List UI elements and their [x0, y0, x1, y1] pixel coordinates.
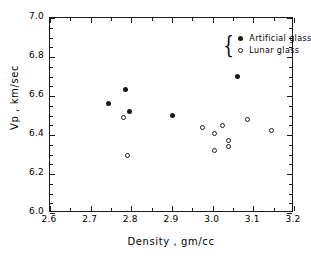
data-point-lunar-glass	[125, 153, 130, 158]
y-axis-tick	[50, 86, 53, 87]
y-axis-tick	[50, 174, 55, 175]
plot-area: { Artificial glass Lunar glass	[49, 17, 293, 212]
data-point-lunar-glass	[269, 128, 274, 133]
x-axis-tick	[70, 208, 71, 211]
x-axis-tick	[172, 18, 173, 23]
scatter-plot-figure: { Artificial glass Lunar glass 2.62.72.8…	[0, 0, 311, 263]
data-point-artificial-glass	[123, 87, 128, 92]
x-axis-tick	[253, 206, 254, 211]
y-axis-tick	[289, 164, 292, 165]
y-axis-tick	[50, 18, 55, 19]
legend-label-lunar-glass: Lunar glass	[249, 46, 299, 55]
y-axis-tick	[289, 106, 292, 107]
x-axis-tick	[91, 206, 92, 211]
y-axis-tick	[287, 57, 292, 58]
x-axis-tick	[294, 18, 295, 23]
y-axis-tick	[50, 67, 53, 68]
data-point-lunar-glass	[212, 148, 217, 153]
data-point-artificial-glass	[106, 101, 111, 106]
x-tick-label: 2.8	[115, 214, 145, 225]
y-axis-tick	[289, 194, 292, 195]
x-axis-title: Density , gm/cc	[49, 236, 293, 247]
x-tick-label: 3.0	[197, 214, 227, 225]
data-point-artificial-glass	[170, 113, 175, 118]
y-axis-tick	[50, 96, 55, 97]
x-axis-tick	[274, 208, 275, 211]
y-tick-label: 7.0	[12, 11, 44, 22]
x-tick-label: 3.2	[278, 214, 308, 225]
y-axis-tick	[289, 28, 292, 29]
x-axis-tick	[233, 18, 234, 21]
x-axis-tick	[91, 18, 92, 23]
legend-brace-icon: {	[223, 40, 234, 50]
y-axis-tick	[50, 184, 53, 185]
y-axis-tick	[289, 67, 292, 68]
x-axis-tick	[253, 18, 254, 23]
x-axis-tick	[213, 206, 214, 211]
y-axis-tick	[289, 86, 292, 87]
y-axis-tick	[289, 77, 292, 78]
open-circle-icon	[238, 48, 243, 53]
y-axis-tick	[289, 145, 292, 146]
x-axis-tick	[192, 18, 193, 21]
y-axis-tick	[289, 155, 292, 156]
y-axis-tick	[287, 96, 292, 97]
y-axis-title: Vp , km/sec	[9, 48, 20, 148]
data-point-lunar-glass	[245, 117, 250, 122]
x-axis-tick	[131, 18, 132, 23]
x-axis-tick	[213, 18, 214, 23]
legend-label-artificial-glass: Artificial glass	[249, 34, 311, 43]
x-tick-label: 3.1	[237, 214, 267, 225]
legend-rows: Artificial glass Lunar glass	[238, 34, 311, 55]
x-axis-tick	[152, 18, 153, 21]
data-point-lunar-glass	[212, 131, 217, 136]
y-axis-tick	[50, 155, 53, 156]
y-axis-tick	[50, 145, 53, 146]
y-axis-tick	[50, 38, 53, 39]
y-axis-tick	[50, 194, 53, 195]
x-axis-tick	[111, 208, 112, 211]
legend-item-lunar-glass: Lunar glass	[238, 46, 311, 55]
filled-circle-icon	[238, 36, 243, 41]
x-axis-tick	[172, 206, 173, 211]
y-axis-tick	[289, 116, 292, 117]
y-tick-label: 6.2	[12, 167, 44, 178]
y-axis-tick	[50, 47, 53, 48]
y-axis-tick	[289, 184, 292, 185]
x-axis-tick	[152, 208, 153, 211]
y-axis-tick	[289, 125, 292, 126]
y-axis-tick	[50, 135, 55, 136]
y-tick-label: 6.0	[12, 206, 44, 217]
y-axis-tick	[287, 135, 292, 136]
y-axis-tick	[50, 116, 53, 117]
x-axis-tick	[131, 206, 132, 211]
legend: { Artificial glass Lunar glass	[221, 34, 311, 55]
x-axis-tick	[274, 18, 275, 21]
data-point-lunar-glass	[220, 123, 225, 128]
data-point-artificial-glass	[127, 109, 132, 114]
data-point-lunar-glass	[226, 144, 231, 149]
y-axis-tick	[287, 174, 292, 175]
data-point-lunar-glass	[200, 125, 205, 130]
y-axis-tick	[50, 77, 53, 78]
x-axis-tick	[192, 208, 193, 211]
y-axis-tick	[50, 106, 53, 107]
y-axis-tick	[50, 57, 55, 58]
x-axis-tick	[294, 206, 295, 211]
y-axis-tick	[50, 125, 53, 126]
x-tick-label: 2.9	[156, 214, 186, 225]
y-axis-tick	[50, 164, 53, 165]
y-axis-tick	[289, 203, 292, 204]
x-axis-tick	[111, 18, 112, 21]
y-axis-tick	[50, 203, 53, 204]
x-axis-tick	[70, 18, 71, 21]
legend-item-artificial-glass: Artificial glass	[238, 34, 311, 43]
y-axis-tick	[50, 28, 53, 29]
data-point-lunar-glass	[121, 115, 126, 120]
y-axis-tick	[287, 18, 292, 19]
x-tick-label: 2.7	[75, 214, 105, 225]
x-axis-tick	[50, 206, 51, 211]
data-point-lunar-glass	[226, 138, 231, 143]
data-point-artificial-glass	[235, 74, 240, 79]
x-axis-tick	[233, 208, 234, 211]
